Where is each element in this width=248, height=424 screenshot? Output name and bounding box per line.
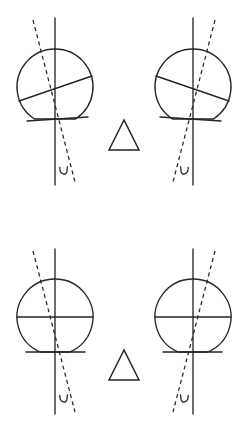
circle-diagram-top-left <box>17 18 93 185</box>
dashed-tilted-axis-line <box>33 20 75 182</box>
dashed-tilted-axis-line <box>33 251 75 412</box>
circle-diagram-bottom-left <box>17 249 93 414</box>
dashed-tilted-axis-line <box>173 251 215 412</box>
dashed-tilted-axis-line <box>173 20 215 182</box>
triangle-center-top <box>109 120 139 150</box>
geometry-figure <box>0 0 248 424</box>
angle-curl-marker <box>60 395 68 402</box>
circle-diagram-top-right <box>155 18 231 185</box>
angle-curl-marker <box>181 395 189 402</box>
figure-canvas <box>0 0 248 424</box>
triangle-center-bottom <box>109 350 139 380</box>
angle-curl-marker <box>60 167 68 174</box>
circle-diagram-bottom-right <box>155 249 231 414</box>
angle-curl-marker <box>181 167 189 174</box>
